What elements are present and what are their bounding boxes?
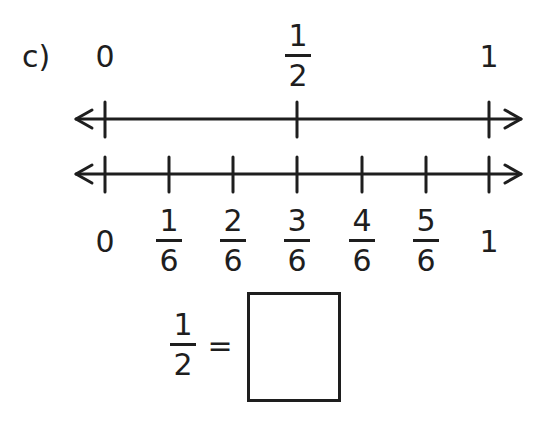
bottom-label-one: 1 — [479, 227, 499, 257]
fraction-bar — [220, 239, 246, 242]
denominator: 6 — [149, 246, 189, 276]
denominator: 6 — [277, 246, 317, 276]
numerator: 4 — [342, 206, 382, 236]
numerator: 2 — [213, 206, 253, 236]
bottom-label-1-6: 1 6 — [149, 206, 189, 276]
numerator: 3 — [277, 206, 317, 236]
fraction-bar — [170, 343, 196, 346]
fraction-bar — [349, 239, 375, 242]
denominator: 6 — [342, 246, 382, 276]
numerator: 1 — [163, 310, 203, 340]
top-number-line — [76, 102, 521, 137]
fraction-bar — [413, 239, 439, 242]
fraction-bar — [284, 239, 310, 242]
equals-sign: = — [205, 331, 235, 361]
equation-fraction-half: 1 2 — [163, 310, 203, 380]
fraction-bar — [156, 239, 182, 242]
bottom-label-zero: 0 — [95, 227, 115, 257]
numerator: 5 — [406, 206, 446, 236]
denominator: 2 — [163, 350, 203, 380]
answer-box[interactable] — [247, 292, 341, 402]
bottom-label-2-6: 2 6 — [213, 206, 253, 276]
numerator: 1 — [149, 206, 189, 236]
denominator: 6 — [406, 246, 446, 276]
bottom-label-4-6: 4 6 — [342, 206, 382, 276]
bottom-label-3-6: 3 6 — [277, 206, 317, 276]
denominator: 6 — [213, 246, 253, 276]
bottom-number-line — [76, 157, 521, 192]
bottom-label-5-6: 5 6 — [406, 206, 446, 276]
